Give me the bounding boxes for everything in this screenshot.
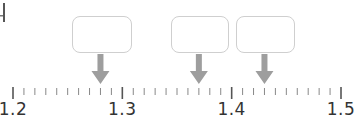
axis-label: 1.4 (217, 99, 246, 119)
axis-label: 1.2 (0, 99, 27, 119)
axis-label: 1.3 (108, 99, 137, 119)
axis-label: 1.5 (327, 99, 355, 119)
